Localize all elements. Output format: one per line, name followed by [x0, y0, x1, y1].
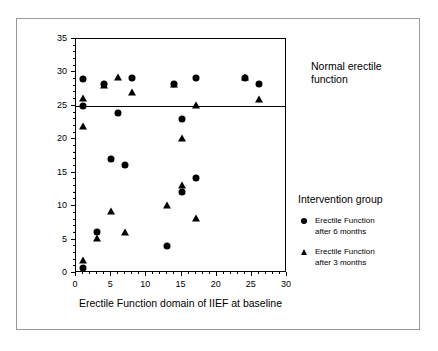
- data-point: [79, 257, 87, 264]
- x-tick-mark: [188, 272, 189, 274]
- x-tick-label: 0: [72, 280, 77, 289]
- x-tick-mark: [209, 272, 210, 274]
- data-point: [164, 243, 171, 250]
- y-tick-mark: [73, 219, 75, 220]
- y-tick-mark: [71, 205, 75, 206]
- data-point: [80, 76, 87, 83]
- y-tick-mark: [73, 51, 75, 52]
- x-tick-label: 20: [211, 280, 221, 289]
- x-tick-mark: [216, 272, 217, 276]
- x-tick-mark: [244, 272, 245, 274]
- x-tick-mark: [82, 272, 83, 274]
- y-tick-mark: [73, 65, 75, 66]
- y-tick-mark: [73, 98, 75, 99]
- y-tick-label: 0: [37, 268, 67, 277]
- x-tick-mark: [279, 272, 280, 274]
- x-tick-mark: [117, 272, 118, 274]
- y-tick-mark: [73, 198, 75, 199]
- normal-erectile-function-note: Normal erectile function: [311, 60, 421, 86]
- x-tick-mark: [124, 272, 125, 274]
- x-tick-mark: [159, 272, 160, 274]
- x-tick-mark: [181, 272, 182, 276]
- data-point: [115, 109, 122, 116]
- y-tick-label: 10: [37, 201, 67, 210]
- x-tick-label: 15: [175, 280, 185, 289]
- data-point: [128, 88, 136, 95]
- legend-item-3-months-line2: after 3 months: [315, 257, 423, 268]
- y-tick-mark: [73, 158, 75, 159]
- data-point: [108, 156, 115, 163]
- x-tick-mark: [75, 272, 76, 276]
- y-tick-label: 20: [37, 134, 67, 143]
- legend: Intervention group Erectile Function aft…: [298, 193, 423, 277]
- y-tick-label: 35: [37, 34, 67, 43]
- legend-item-6-months: Erectile Function after 6 months: [298, 215, 423, 237]
- legend-title: Intervention group: [298, 193, 423, 205]
- data-point: [93, 235, 101, 242]
- x-axis-title: Erectile Function domain of IIEF at base…: [75, 297, 286, 309]
- data-point: [79, 94, 87, 101]
- y-tick-mark: [73, 165, 75, 166]
- y-tick-mark: [73, 112, 75, 113]
- x-tick-mark: [195, 272, 196, 274]
- normal-function-note-line1: Normal erectile: [311, 60, 421, 73]
- reference-line-y-25: [76, 106, 285, 107]
- y-tick-mark: [73, 212, 75, 213]
- data-point: [178, 116, 185, 123]
- legend-item-6-months-line1: Erectile Function: [315, 215, 423, 226]
- data-point: [192, 215, 200, 222]
- x-tick-mark: [152, 272, 153, 274]
- x-tick-mark: [223, 272, 224, 274]
- y-tick-mark: [73, 125, 75, 126]
- x-tick-label: 5: [108, 280, 113, 289]
- x-tick-mark: [89, 272, 90, 274]
- circle-marker-icon: [301, 218, 307, 224]
- y-tick-mark: [73, 245, 75, 246]
- y-tick-mark: [73, 192, 75, 193]
- y-tick-mark: [73, 145, 75, 146]
- data-point: [192, 102, 200, 109]
- y-tick-mark: [73, 45, 75, 46]
- y-tick-mark: [73, 58, 75, 59]
- x-tick-mark: [173, 272, 174, 274]
- y-tick-mark: [73, 132, 75, 133]
- data-point: [178, 189, 185, 196]
- x-tick-mark: [258, 272, 259, 274]
- figure-canvas: Erectile Function domain of IIEF at 3 & …: [0, 0, 438, 351]
- plot-inner-canvas: [76, 39, 285, 271]
- data-point: [80, 264, 87, 271]
- data-point: [178, 134, 186, 141]
- normal-function-note-line2: function: [311, 73, 421, 86]
- data-point: [100, 82, 108, 89]
- y-tick-label: 15: [37, 167, 67, 176]
- x-tick-mark: [202, 272, 203, 274]
- y-tick-mark: [73, 78, 75, 79]
- y-tick-mark: [73, 232, 75, 233]
- legend-item-3-months: Erectile Function after 3 months: [298, 246, 423, 268]
- data-point: [80, 102, 87, 109]
- y-tick-label: 5: [37, 234, 67, 243]
- data-point: [163, 202, 171, 209]
- y-tick-mark: [71, 71, 75, 72]
- data-point: [121, 229, 129, 236]
- x-tick-mark: [96, 272, 97, 274]
- data-point: [255, 96, 263, 103]
- data-point: [107, 208, 115, 215]
- data-point: [129, 75, 136, 82]
- x-tick-mark: [103, 272, 104, 274]
- legend-item-3-months-line1: Erectile Function: [315, 246, 423, 257]
- x-tick-mark: [166, 272, 167, 274]
- x-tick-mark: [138, 272, 139, 274]
- x-tick-mark: [230, 272, 231, 274]
- y-tick-mark: [73, 225, 75, 226]
- y-tick-mark: [73, 118, 75, 119]
- x-tick-mark: [110, 272, 111, 276]
- y-tick-mark: [73, 265, 75, 266]
- data-point: [192, 75, 199, 82]
- data-point: [192, 175, 199, 182]
- x-tick-label: 30: [281, 280, 291, 289]
- data-point: [114, 74, 122, 81]
- y-tick-mark: [71, 105, 75, 106]
- x-tick-mark: [131, 272, 132, 274]
- x-tick-mark: [272, 272, 273, 274]
